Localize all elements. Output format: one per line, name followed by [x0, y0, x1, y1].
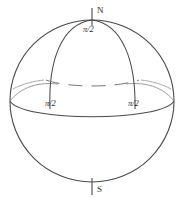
sphere-outline	[10, 20, 174, 182]
south-pole-label: S	[97, 185, 102, 194]
sphere-diagram: N S π/2 π/2 π/2	[0, 0, 184, 201]
right-angle-label: π/2	[128, 99, 139, 108]
top-angle-label: π/2	[83, 25, 94, 34]
meridian-right-arc	[92, 20, 135, 109]
left-angle-label: π/2	[45, 99, 56, 108]
north-pole-label: N	[97, 6, 104, 15]
latitude-dashed-arc	[46, 80, 139, 86]
equator-front-arc	[10, 101, 174, 117]
